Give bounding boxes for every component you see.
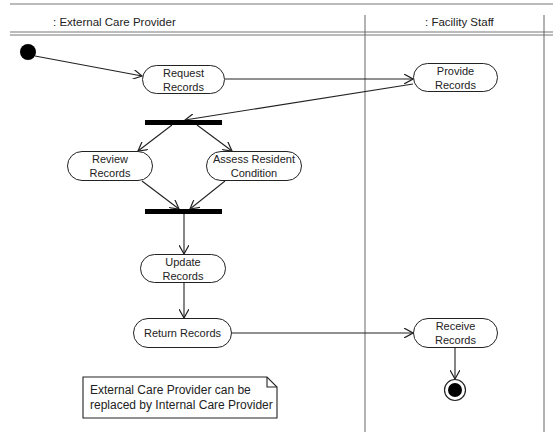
action-label: Receive Records — [435, 319, 476, 347]
flow-initial-to-request — [35, 56, 142, 76]
swimlane-title-external-care-provider: : External Care Provider — [53, 16, 176, 28]
action-receive-records[interactable]: Receive Records — [413, 318, 498, 348]
action-assess-resident-condition[interactable]: Assess Resident Condition — [206, 151, 302, 181]
swimlane-title-facility-staff: : Facility Staff — [425, 16, 494, 28]
flow-fork-to-review — [138, 125, 172, 151]
flow-fork-to-assess — [197, 125, 232, 151]
action-label: Review Records — [90, 152, 131, 180]
fork-bar — [145, 120, 222, 125]
action-label: Return Records — [144, 326, 221, 340]
action-return-records[interactable]: Return Records — [133, 318, 232, 348]
flow-review-to-join — [142, 181, 179, 209]
flow-assess-to-join — [190, 181, 225, 209]
action-label: Provide Records — [435, 64, 476, 92]
action-label: Request Records — [163, 66, 204, 94]
action-label: Update Records — [163, 255, 204, 283]
action-provide-records[interactable]: Provide Records — [413, 63, 498, 92]
join-bar — [145, 209, 222, 214]
action-request-records[interactable]: Request Records — [142, 65, 225, 94]
final-node-core — [448, 383, 462, 397]
action-update-records[interactable]: Update Records — [140, 254, 226, 283]
action-review-records[interactable]: Review Records — [67, 151, 153, 181]
initial-node — [20, 44, 36, 60]
action-label: Assess Resident Condition — [213, 152, 295, 180]
note-text: External Care Provider can be replaced b… — [83, 377, 277, 418]
